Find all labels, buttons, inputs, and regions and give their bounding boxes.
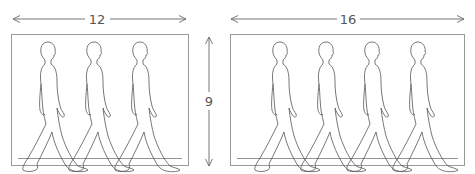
width-dimension-12: 12: [13, 12, 186, 27]
height-dimension-9: 9: [205, 37, 213, 166]
width-label-12: 12: [89, 12, 106, 27]
frame-12-by-9: [12, 35, 189, 172]
width-dimension-16: 16: [231, 12, 464, 27]
aspect-ratio-diagram: 12 9 16: [0, 0, 475, 174]
frame-16-by-9: [231, 35, 465, 172]
width-label-16: 16: [340, 12, 357, 27]
height-label-9: 9: [205, 94, 213, 109]
